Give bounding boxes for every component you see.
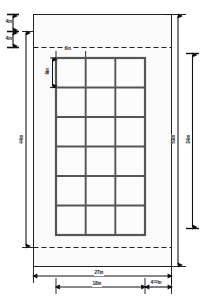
dim-unit: in bbox=[158, 280, 162, 285]
tile-grid bbox=[56, 58, 145, 235]
dimension-drawing-svg bbox=[0, 0, 203, 306]
dimension-label-44in: 44in bbox=[20, 134, 25, 144]
dimension-label-18in: 18in bbox=[92, 282, 102, 287]
dimension-label-4in-second: 4in bbox=[5, 37, 12, 42]
dimension-label-tile-width-6in: 6in bbox=[64, 47, 71, 52]
dimension-label-34in: 34in bbox=[187, 134, 192, 144]
dimension-label-27in: 27in bbox=[94, 271, 104, 276]
dimension-label-tile-height-6in: 6in bbox=[46, 68, 51, 75]
dimension-label-4half-in: 41/2in bbox=[150, 281, 162, 286]
dimension-label-4in-top: 4in bbox=[5, 20, 12, 25]
dimension-label-53in: 53in bbox=[172, 134, 177, 144]
technical-drawing-canvas: 4in 4in 44in 53in 34in 6in 6in 27in 18in… bbox=[0, 0, 203, 306]
